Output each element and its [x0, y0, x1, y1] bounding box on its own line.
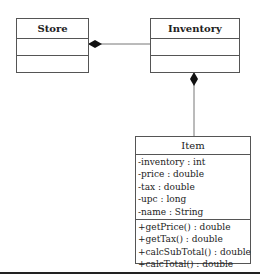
attribute: -inventory : int	[136, 156, 250, 168]
method: +getTax() : double	[136, 233, 250, 245]
method: +getPrice() : double	[136, 221, 250, 233]
class-item[interactable]: Item -inventory : int -price : double -t…	[135, 136, 251, 264]
attribute: -upc : long	[136, 193, 250, 205]
attributes-compartment	[151, 39, 239, 56]
class-inventory[interactable]: Inventory	[150, 18, 240, 73]
class-name: Item	[136, 137, 250, 155]
attribute: -tax : double	[136, 181, 250, 193]
attributes-compartment	[17, 39, 88, 56]
attributes-compartment: -inventory : int -price : double -tax : …	[136, 155, 250, 220]
composition-diamond-icon	[88, 40, 102, 48]
class-name: Store	[17, 19, 88, 39]
method: +calcSubTotal() : double	[136, 246, 250, 258]
class-name: Inventory	[151, 19, 239, 39]
class-store[interactable]: Store	[16, 18, 89, 73]
composition-diamond-icon	[190, 72, 198, 86]
methods-compartment	[17, 56, 88, 72]
methods-compartment	[151, 56, 239, 72]
attribute: -price : double	[136, 168, 250, 180]
bottom-rule	[0, 272, 260, 274]
method: +calcTotal() : double	[136, 258, 250, 270]
methods-compartment: +getPrice() : double +getTax() : double …	[136, 220, 250, 272]
attribute: -name : String	[136, 206, 250, 218]
